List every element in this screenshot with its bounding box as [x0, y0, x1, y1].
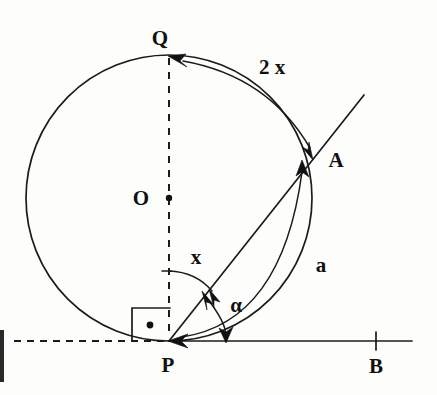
label-point-q: Q: [152, 26, 168, 50]
diagram-canvas: Q O A P B 2 x a x α: [0, 0, 437, 395]
angle-x-arrowhead: [209, 289, 220, 308]
right-angle-dot: [147, 322, 154, 329]
label-arc-a: a: [316, 253, 327, 277]
geometry-figure: Q O A P B 2 x a x α: [0, 0, 437, 395]
label-angle-x: x: [191, 245, 202, 269]
center-point-dot: [166, 195, 172, 201]
label-point-p: P: [162, 353, 175, 377]
secant-line-pa: [169, 95, 364, 341]
label-arc-2x: 2 x: [259, 55, 286, 79]
scan-edge-artifact: [0, 330, 4, 382]
label-center-o: O: [133, 186, 149, 210]
arc-2x-a-to-q: [183, 61, 310, 148]
angle-x-arc: [169, 271, 212, 291]
label-angle-alpha: α: [230, 293, 242, 317]
label-point-a: A: [328, 148, 344, 172]
label-point-b: B: [369, 354, 383, 378]
